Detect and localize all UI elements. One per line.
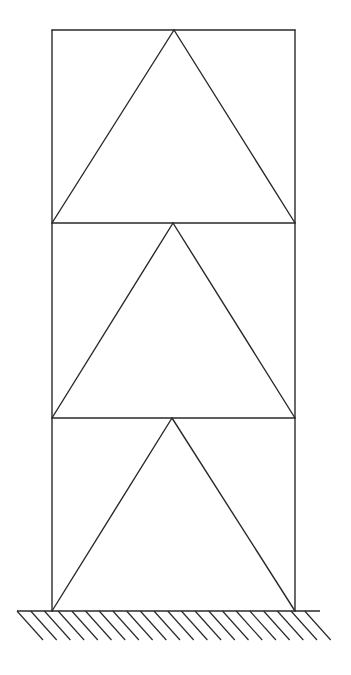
ground-hatch	[127, 611, 153, 640]
ground-hatch	[72, 611, 98, 640]
ground-hatch	[154, 611, 180, 640]
braced-frame-diagram	[0, 0, 351, 675]
ground-hatch	[209, 611, 235, 640]
ground-hatch	[181, 611, 207, 640]
ground-hatch	[140, 611, 166, 640]
story-2-left-brace	[52, 223, 173, 418]
story-2-right-brace	[173, 223, 295, 418]
ground-hatch	[44, 611, 70, 640]
ground-hatch	[86, 611, 112, 640]
story-3-right-brace	[174, 30, 295, 223]
story-1-right-brace	[172, 418, 295, 611]
ground-hatch	[291, 611, 317, 640]
story-3-left-brace	[52, 30, 174, 223]
ground-hatch	[99, 611, 125, 640]
ground-hatch	[236, 611, 262, 640]
ground-hatch	[250, 611, 276, 640]
ground-support	[17, 611, 331, 640]
ground-hatch	[305, 611, 331, 640]
frame-structure	[52, 30, 295, 611]
ground-hatch	[31, 611, 57, 640]
ground-hatch	[17, 611, 43, 640]
ground-hatch	[113, 611, 139, 640]
ground-hatch	[168, 611, 194, 640]
ground-hatch	[195, 611, 221, 640]
story-1-left-brace	[52, 418, 172, 611]
ground-hatch	[277, 611, 303, 640]
ground-hatch	[58, 611, 84, 640]
ground-hatch	[264, 611, 290, 640]
ground-hatch	[223, 611, 249, 640]
